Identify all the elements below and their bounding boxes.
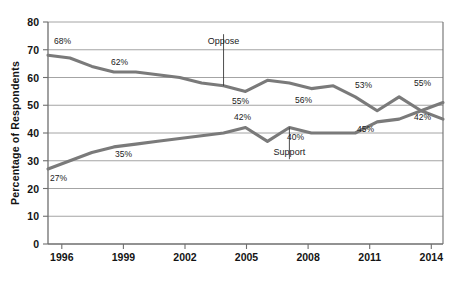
xtick-label-2002: 2002 <box>173 251 197 263</box>
data-label-oppose-1999: 62% <box>111 57 128 67</box>
ytick-label-70: 70 <box>27 44 39 56</box>
x-axis-tick-labels: 1996 1999 2002 2005 2008 2011 2014 <box>50 251 443 263</box>
data-label-oppose-2008: 56% <box>295 95 312 105</box>
ytick-label-30: 30 <box>27 155 39 167</box>
xtick-label-1996: 1996 <box>50 251 74 263</box>
ytick-label-10: 10 <box>27 210 39 222</box>
data-label-oppose-2011: 53% <box>355 80 372 90</box>
data-label-support-2005: 42% <box>234 112 251 122</box>
ytick-label-50: 50 <box>27 99 39 111</box>
data-label-oppose-2005: 55% <box>232 96 249 106</box>
ytick-label-80: 80 <box>27 16 39 28</box>
data-label-oppose-1996: 68% <box>54 36 71 46</box>
ytick-label-40: 40 <box>27 127 39 139</box>
series-annotation-support: Support <box>274 147 306 157</box>
percentage-of-respondents-line-chart: 80 70 60 50 40 30 20 10 0 1996 1999 2002… <box>0 0 460 282</box>
data-label-support-2011: 45% <box>357 124 374 134</box>
series-annotation-oppose: Oppose <box>208 36 240 46</box>
y-axis-tick-labels: 80 70 60 50 40 30 20 10 0 <box>27 16 39 250</box>
y-axis-title: Percentage of Respondents <box>9 61 21 205</box>
xtick-label-2011: 2011 <box>358 251 381 263</box>
ytick-label-60: 60 <box>27 72 39 84</box>
data-label-support-2007: 40% <box>287 132 304 142</box>
xtick-label-2014: 2014 <box>420 251 444 263</box>
ytick-label-20: 20 <box>27 183 39 195</box>
xtick-label-2008: 2008 <box>296 251 320 263</box>
xtick-label-2005: 2005 <box>235 251 259 263</box>
chart-figure: 80 70 60 50 40 30 20 10 0 1996 1999 2002… <box>0 0 460 282</box>
xtick-label-1999: 1999 <box>112 251 136 263</box>
data-label-oppose-2014: 42% <box>414 112 431 122</box>
ytick-label-0: 0 <box>33 238 39 250</box>
data-label-support-1996: 27% <box>50 173 67 183</box>
x-axis-ticks <box>62 244 432 249</box>
data-label-support-2014: 55% <box>414 78 431 88</box>
data-label-support-1999: 35% <box>115 149 132 159</box>
